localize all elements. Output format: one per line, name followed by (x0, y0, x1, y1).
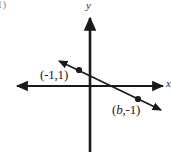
graph-canvas (0, 0, 171, 152)
y-axis-label: y (86, 0, 91, 11)
point-a-label: (-1,1) (40, 68, 68, 81)
point-b-label: (b,-1) (112, 103, 140, 116)
x-axis-label: x (166, 78, 171, 89)
coordinate-plane-figure: 1) y x (-1,1) (b,-1) (0, 0, 171, 152)
point-b-label-rest: ,-1) (122, 102, 140, 117)
problem-number: 1) (0, 0, 6, 10)
point-a-dot (76, 67, 82, 73)
